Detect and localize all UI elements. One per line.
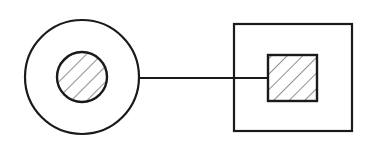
diagram-svg	[0, 0, 372, 146]
inner-hatched-square	[268, 55, 317, 101]
diagram-canvas	[0, 0, 372, 146]
inner-hatched-circle	[57, 52, 107, 102]
